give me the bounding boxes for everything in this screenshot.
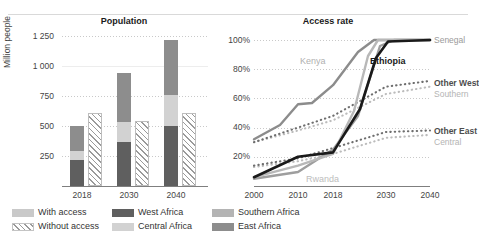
y-tick-750: 750 — [14, 91, 54, 101]
bar-without-access-2018 — [88, 113, 102, 186]
gridline-1000 — [62, 66, 208, 67]
right-label-southern: Southern — [434, 89, 469, 99]
access-rate-line-chart: Access rate 100% 80% 60% 40% 20% — [208, 16, 474, 198]
inline-label-rwanda: Rwanda — [306, 174, 339, 184]
x-cat-2040: 2040 — [156, 190, 196, 200]
legend-swatch-east-africa — [212, 223, 234, 231]
x-tick-2030: 2030 — [366, 190, 406, 200]
left-chart-title: Population — [40, 16, 208, 26]
top-divider — [8, 14, 468, 15]
segment-west-africa-2040 — [164, 126, 178, 186]
y-tick-250: 250 — [14, 151, 54, 161]
y-tick-1250: 1 250 — [14, 31, 54, 41]
segment-central-africa-2040 — [164, 95, 178, 126]
legend-swatch-west-africa — [112, 209, 134, 217]
legend-label-central-africa: Central Africa — [138, 221, 192, 231]
y-tick-500: 500 — [14, 121, 54, 131]
left-y-axis-label: Million people — [2, 16, 12, 68]
legend-swatch-central-africa — [112, 223, 134, 231]
legend-swatch-without-access — [12, 223, 34, 231]
legend-label-east-africa: East Africa — [238, 221, 281, 231]
legend-swatch-with-access — [12, 209, 34, 217]
segment-west-africa-2018 — [70, 160, 84, 186]
inline-label-ethiopia: Ethiopia — [370, 56, 406, 66]
x-tick-2000: 2000 — [234, 190, 274, 200]
x-cat-2018: 2018 — [62, 190, 102, 200]
segment-west-africa-2030 — [117, 142, 131, 186]
legend-label-with-access: With access — [38, 207, 87, 217]
chart-legend: With access Without access West Africa C… — [0, 205, 474, 241]
population-bar-chart: Population Million people 1 250 1 000 75… — [0, 16, 208, 198]
x-tick-2040: 2040 — [410, 190, 450, 200]
segment-central-africa-2018 — [70, 151, 84, 161]
legend-swatch-southern-africa — [212, 209, 234, 217]
legend-label-west-africa: West Africa — [138, 207, 183, 217]
right-label-central: Central — [434, 137, 461, 147]
legend-label-southern-africa: Southern Africa — [238, 207, 300, 217]
bar-with-access-2018 — [70, 126, 84, 186]
bar-without-access-2030 — [135, 121, 149, 186]
left-x-axis — [62, 186, 208, 187]
right-label-senegal: Senegal — [434, 35, 465, 45]
legend-label-without-access: Without access — [38, 221, 99, 231]
bar-with-access-2030 — [117, 73, 131, 186]
right-label-other-west: Other West — [434, 78, 479, 88]
x-tick-2010: 2010 — [278, 190, 318, 200]
x-tick-2018: 2018 — [313, 190, 353, 200]
segment-east-africa-2030 — [117, 73, 131, 122]
inline-label-kenya: Kenya — [300, 56, 326, 66]
segment-east-africa-2018 — [70, 126, 84, 151]
bar-with-access-2040 — [164, 40, 178, 186]
gridline-750 — [62, 96, 208, 97]
bar-without-access-2040 — [182, 113, 196, 186]
segment-east-africa-2040 — [164, 40, 178, 95]
segment-central-africa-2030 — [117, 122, 131, 142]
line-senegal — [254, 40, 430, 139]
gridline-1250 — [62, 36, 208, 37]
right-label-other-east: Other East — [434, 126, 477, 136]
y-tick-1000: 1 000 — [14, 61, 54, 71]
x-cat-2030: 2030 — [109, 190, 149, 200]
